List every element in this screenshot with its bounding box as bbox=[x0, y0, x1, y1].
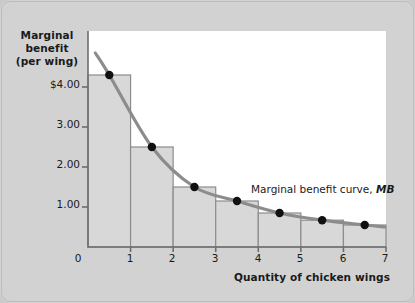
marker-point-3 bbox=[190, 183, 198, 191]
bar-2 bbox=[131, 147, 174, 247]
marker-point-4 bbox=[233, 197, 241, 205]
bar-3 bbox=[173, 187, 216, 247]
marker-point-1 bbox=[105, 71, 113, 79]
marker-point-2 bbox=[148, 143, 156, 151]
chart-graphics bbox=[0, 0, 415, 303]
chart-figure: Marginal benefit (per wing) Quantity of … bbox=[0, 0, 415, 303]
bar-4 bbox=[216, 201, 259, 247]
marker-point-7 bbox=[361, 221, 369, 229]
marker-point-6 bbox=[318, 216, 326, 224]
bar-5 bbox=[258, 213, 301, 247]
marker-point-5 bbox=[275, 209, 283, 217]
